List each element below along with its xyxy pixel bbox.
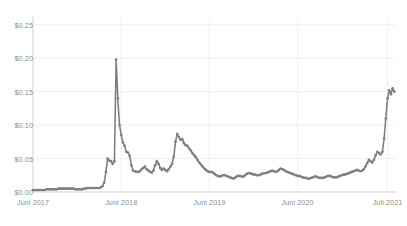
data-point bbox=[384, 117, 387, 120]
data-point bbox=[189, 149, 192, 152]
data-point bbox=[128, 155, 131, 158]
data-point bbox=[123, 144, 126, 147]
data-point bbox=[130, 164, 133, 167]
x-axis-tick-label: Juli 2021 bbox=[373, 198, 403, 207]
data-point bbox=[144, 165, 147, 168]
data-point bbox=[366, 162, 369, 165]
data-point bbox=[362, 168, 365, 171]
x-axis-tick-label: Juni 2018 bbox=[105, 198, 137, 207]
data-point bbox=[113, 160, 116, 163]
data-point bbox=[374, 154, 377, 157]
data-point bbox=[118, 124, 121, 127]
data-point bbox=[101, 185, 104, 188]
chart-canvas bbox=[0, 0, 407, 226]
data-point bbox=[388, 89, 391, 92]
data-point bbox=[186, 144, 189, 147]
data-point bbox=[152, 169, 155, 172]
y-axis-tick-label: $0.15 bbox=[1, 87, 33, 96]
x-axis-tick-label: Juni 2020 bbox=[282, 198, 314, 207]
data-point bbox=[115, 58, 118, 61]
data-point bbox=[386, 97, 389, 100]
y-axis-tick-label: $0.20 bbox=[1, 54, 33, 63]
data-point bbox=[103, 181, 106, 184]
axis-lines bbox=[33, 16, 396, 192]
y-axis-tick-label: $0.25 bbox=[1, 20, 33, 29]
price-line-chart: $0.00$0.05$0.10$0.15$0.20$0.25 Juni 2017… bbox=[0, 0, 407, 226]
data-point bbox=[373, 159, 376, 162]
data-point bbox=[154, 164, 157, 167]
data-point bbox=[178, 136, 181, 139]
data-point bbox=[379, 153, 382, 156]
data-point bbox=[391, 87, 394, 90]
data-point bbox=[383, 137, 386, 140]
data-point bbox=[381, 151, 384, 154]
data-point bbox=[157, 163, 160, 166]
data-point bbox=[169, 165, 172, 168]
data-point bbox=[172, 155, 175, 158]
data-point bbox=[120, 134, 123, 137]
x-axis-tick-label: Juni 2019 bbox=[193, 198, 225, 207]
grid-lines bbox=[33, 18, 396, 192]
data-point bbox=[105, 171, 108, 174]
x-axis-tick-label: Juni 2017 bbox=[17, 198, 49, 207]
data-point bbox=[127, 151, 130, 154]
data-point bbox=[171, 163, 174, 166]
y-axis-tick-label: $0.00 bbox=[1, 188, 33, 197]
data-point bbox=[122, 141, 125, 144]
data-point bbox=[174, 140, 177, 143]
data-point bbox=[181, 138, 184, 141]
data-point bbox=[116, 97, 119, 100]
data-point bbox=[155, 160, 158, 163]
data-point bbox=[390, 93, 393, 96]
data-point bbox=[167, 168, 170, 171]
data-point bbox=[371, 161, 374, 164]
data-point bbox=[364, 165, 367, 168]
y-axis-tick-label: $0.10 bbox=[1, 121, 33, 130]
data-point bbox=[176, 132, 179, 135]
data-point bbox=[110, 160, 113, 163]
data-point bbox=[393, 90, 396, 93]
data-point bbox=[194, 156, 197, 159]
y-axis-tick-label: $0.05 bbox=[1, 154, 33, 163]
data-point bbox=[111, 163, 114, 166]
data-point bbox=[196, 159, 199, 162]
